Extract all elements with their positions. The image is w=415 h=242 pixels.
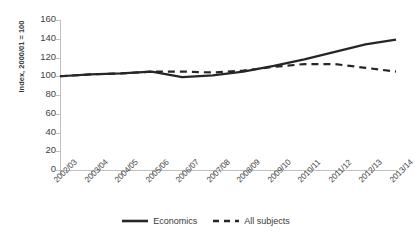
chart-legend: EconomicsAll subjects <box>0 216 412 226</box>
data-series-group <box>60 40 396 78</box>
y-axis-tick-label: 60 <box>45 108 56 118</box>
axis-lines <box>56 20 397 174</box>
legend-item[interactable]: All subjects <box>213 216 290 226</box>
legend-swatch-solid <box>122 217 148 225</box>
y-axis-tick-label: 40 <box>45 127 56 137</box>
y-axis-tick-label: 140 <box>40 33 56 43</box>
y-axis-tick-label: 120 <box>40 52 56 62</box>
legend-swatch-dashed <box>213 217 239 225</box>
y-axis-tick-label: 20 <box>45 145 56 155</box>
y-axis-tick-label: 100 <box>40 70 56 80</box>
legend-item[interactable]: Economics <box>122 216 197 226</box>
legend-label: Economics <box>153 216 197 226</box>
y-axis-tick-labels: 020406080100120140160 <box>16 0 56 242</box>
y-axis-tick-label: 160 <box>40 14 56 24</box>
y-axis-tick-label: 0 <box>51 164 56 174</box>
legend-label: All subjects <box>244 216 290 226</box>
y-axis-tick-label: 80 <box>45 89 56 99</box>
